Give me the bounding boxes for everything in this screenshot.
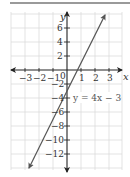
y-tick-label: 2 bbox=[57, 51, 63, 61]
y-tick-label: −12 bbox=[45, 149, 64, 159]
coordinate-plane: y x −3 −2 −1 0 1 2 3 6 4 2 −2 −4 −6 −8 −… bbox=[0, 0, 130, 177]
x-tick-label: −2 bbox=[33, 73, 46, 83]
y-tick-label: −6 bbox=[51, 107, 65, 117]
y-tick-label: −10 bbox=[45, 135, 64, 145]
equation-label: y = 4x − 3 bbox=[72, 93, 121, 103]
x-tick-label: 1 bbox=[79, 73, 85, 83]
y-tick-label: −2 bbox=[51, 79, 64, 89]
x-axis-label: x bbox=[123, 71, 129, 82]
line-y-equals-4x-minus-3 bbox=[67, 15, 105, 91]
y-tick-label: −8 bbox=[51, 121, 65, 131]
x-tick-label: 2 bbox=[93, 73, 99, 83]
y-tick-label: 6 bbox=[57, 23, 63, 33]
x-tick-label: 3 bbox=[107, 73, 113, 83]
y-tick-label: −4 bbox=[51, 93, 65, 103]
x-tick-label: −3 bbox=[19, 73, 33, 83]
y-axis-label: y bbox=[59, 11, 66, 22]
y-tick-label: 4 bbox=[57, 37, 63, 47]
